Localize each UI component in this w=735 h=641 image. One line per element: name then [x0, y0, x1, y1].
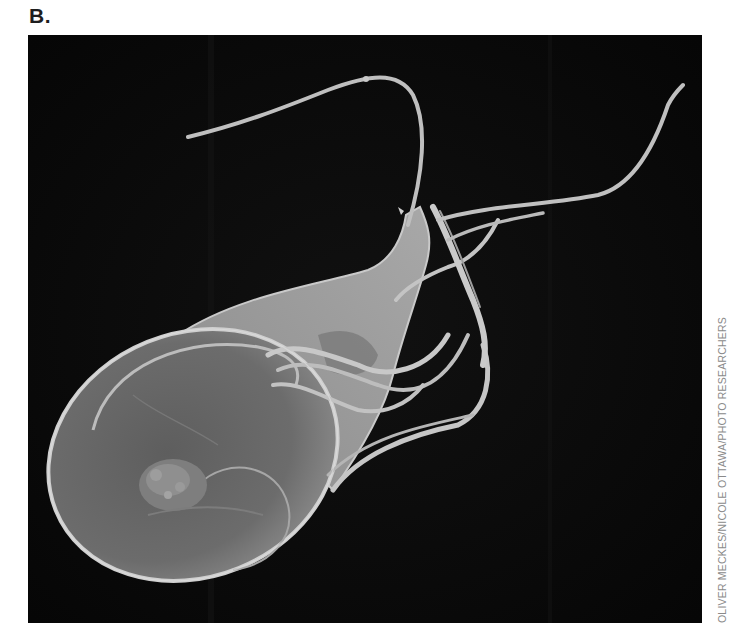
micrograph-photo	[28, 35, 702, 623]
photo-credit: OLIVER MECKES/NICOLE OTTAWA/PHOTO RESEAR…	[717, 317, 728, 623]
micrograph-illustration	[28, 35, 702, 623]
panel-label: B.	[29, 4, 51, 28]
